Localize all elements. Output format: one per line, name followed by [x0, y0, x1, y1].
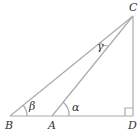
alpha-arc [63, 102, 69, 116]
angle-beta-label: β [29, 101, 35, 112]
segment-ac [52, 16, 133, 116]
point-a-label: A [48, 120, 56, 131]
beta-arc [23, 105, 27, 116]
point-c-label: C [129, 2, 137, 13]
point-d-label: D [128, 120, 137, 131]
diagram-lines [0, 0, 139, 135]
angle-alpha-label: α [72, 102, 79, 113]
right-angle-marker [125, 108, 133, 116]
angle-gamma-label: γ [97, 41, 104, 52]
triangle-diagram: C B A D β α γ [0, 0, 139, 135]
point-b-label: B [5, 120, 13, 131]
